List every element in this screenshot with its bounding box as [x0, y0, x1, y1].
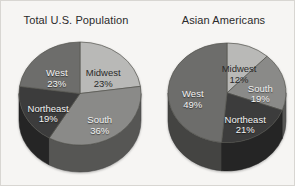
- chart-title-left: Total U.S. Population: [1, 14, 151, 26]
- chart-title-right: Asian Americans: [151, 14, 295, 26]
- pie-slice-midwest: [80, 42, 140, 94]
- pie-slice-west: [20, 42, 80, 94]
- pie-chart-figure: Total U.S. Population Midwest23%South36%…: [0, 0, 295, 186]
- pie-chart-total-us-population: Midwest23%South36%Northeast19%West23%: [18, 41, 142, 173]
- chart-panel-total-us-population: Total U.S. Population Midwest23%South36%…: [1, 1, 151, 186]
- pie-chart-asian-americans: Midwest12%South19%Northeast21%West49%: [167, 42, 287, 172]
- chart-panel-asian-americans: Asian Americans Midwest12%South19%Northe…: [151, 1, 295, 186]
